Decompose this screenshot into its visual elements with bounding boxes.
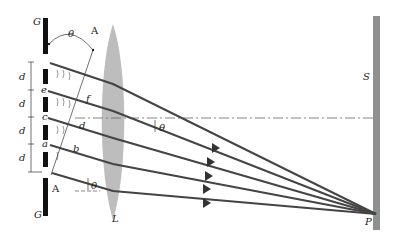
label-L: L [111,213,119,224]
label-d3: d [19,125,25,136]
label-S: S [363,71,370,82]
label-d4: d [19,152,25,163]
label-theta-mid: θ [159,122,165,133]
label-G-top: G [33,16,41,27]
label-d2: d [19,98,25,109]
label-theta-bottom: θ [91,180,97,191]
label-d1: d [19,71,25,82]
label-A-top: A [90,25,99,36]
screen-bar [373,16,380,230]
label-a: a [42,138,48,149]
wavelets [57,70,70,160]
diffraction-diagram: G G θ A A e c a f d b θ θ L S P d d d d [0,0,399,236]
label-e: e [41,84,47,95]
label-theta-top: θ [68,28,74,39]
label-d-ray: d [79,120,85,131]
spacing-dimension [28,62,42,172]
label-c: c [42,111,48,122]
label-b: b [73,143,79,154]
label-f: f [85,93,92,104]
label-G-bottom: G [34,209,42,220]
label-A-bottom: A [51,183,60,194]
rays [48,63,376,214]
label-P: P [364,216,372,227]
